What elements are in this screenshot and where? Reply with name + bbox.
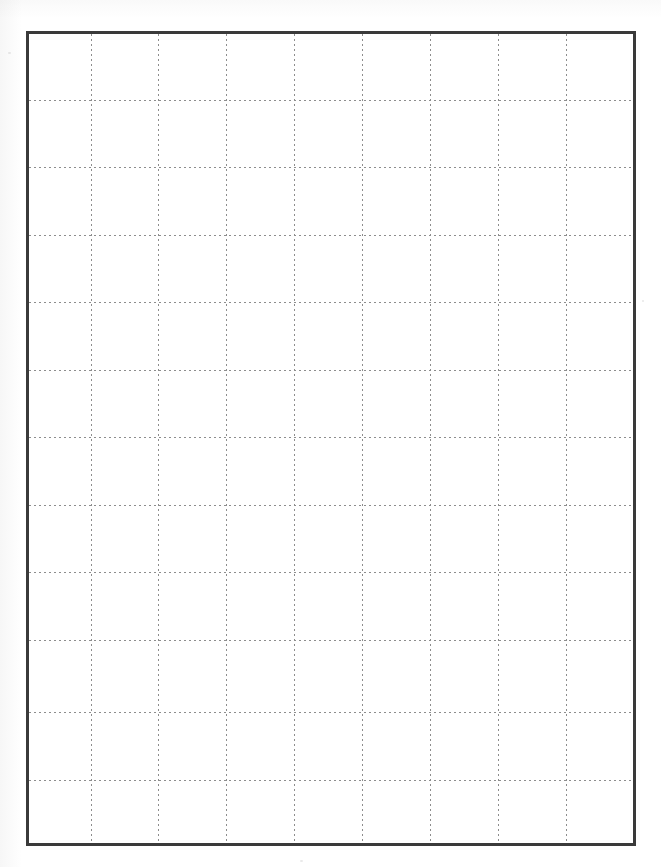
- grid-lines: [26, 31, 636, 846]
- scan-speck-icon: [8, 52, 11, 54]
- grid-line-vertical: [294, 34, 295, 843]
- grid-line-vertical: [226, 34, 227, 843]
- grid-line-horizontal: [29, 100, 633, 101]
- grid-line-horizontal: [29, 437, 633, 438]
- grid-line-vertical: [362, 34, 363, 843]
- grid-line-horizontal: [29, 167, 633, 168]
- scan-speck-icon: [642, 300, 644, 302]
- grid-line-horizontal: [29, 572, 633, 573]
- grid-line-horizontal: [29, 640, 633, 641]
- grid-line-horizontal: [29, 235, 633, 236]
- scan-speck-icon: [300, 860, 303, 862]
- grid-paper-page: [0, 0, 661, 867]
- grid-line-horizontal: [29, 370, 633, 371]
- grid-line-horizontal: [29, 712, 633, 713]
- grid-line-horizontal: [29, 302, 633, 303]
- grid-line-vertical: [566, 34, 567, 843]
- grid-line-vertical: [91, 34, 92, 843]
- grid-line-horizontal: [29, 505, 633, 506]
- grid-line-vertical: [158, 34, 159, 843]
- grid-line-vertical: [498, 34, 499, 843]
- grid-line-horizontal: [29, 780, 633, 781]
- grid-line-vertical: [430, 34, 431, 843]
- grid-frame: [26, 31, 636, 846]
